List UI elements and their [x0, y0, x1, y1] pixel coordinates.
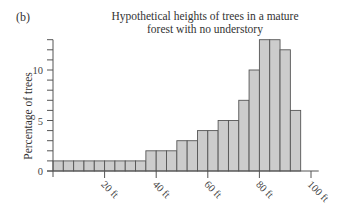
- x-tick-label: 100 ft: [306, 179, 331, 204]
- x-tick-label: 60 ft: [202, 179, 224, 201]
- histogram-bar: [156, 151, 166, 171]
- histogram-bar: [74, 161, 84, 171]
- histogram-bar: [259, 40, 269, 171]
- histogram-bar: [136, 161, 146, 171]
- histogram-bar: [167, 151, 177, 171]
- histogram-bar: [280, 50, 290, 171]
- histogram-bar: [53, 161, 63, 171]
- y-tick-label: 0: [38, 166, 43, 177]
- histogram-bar: [270, 40, 280, 171]
- histogram-bar: [228, 121, 238, 172]
- histogram-bar: [63, 161, 73, 171]
- histogram-bar: [208, 131, 218, 171]
- histogram-bar: [187, 141, 197, 171]
- histogram-plot: 051020 ft40 ft60 ft80 ft100 ft: [0, 0, 343, 216]
- y-tick-label: 10: [33, 65, 44, 76]
- histogram-bar: [115, 161, 125, 171]
- histogram-bar: [146, 151, 156, 171]
- histogram-bar: [218, 121, 228, 172]
- histogram-bar: [125, 161, 135, 171]
- histogram-bar: [249, 70, 259, 171]
- histogram-bar: [94, 161, 104, 171]
- x-tick-label: 80 ft: [254, 179, 276, 201]
- histogram-bar: [84, 161, 94, 171]
- histogram-bar: [197, 131, 207, 171]
- histogram-bar: [239, 100, 249, 171]
- x-tick-label: 40 ft: [151, 179, 173, 201]
- x-tick-label: 20 ft: [99, 179, 121, 201]
- histogram-bar: [105, 161, 115, 171]
- histogram-bar: [290, 110, 300, 171]
- histogram-bar: [177, 141, 187, 171]
- y-tick-label: 5: [38, 116, 43, 127]
